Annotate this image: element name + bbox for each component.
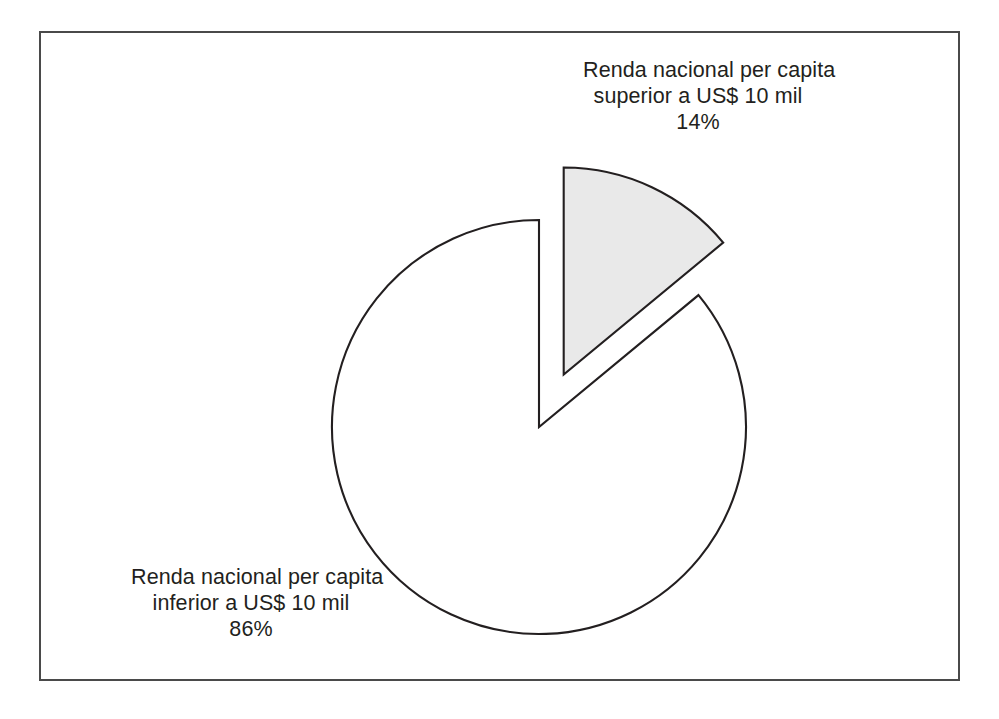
- pie-label-inferior-percent: 86%: [131, 616, 371, 642]
- figure-root: Renda nacional per capita superior a US$…: [0, 0, 999, 719]
- pie-label-superior-line1: Renda nacional per capita: [583, 58, 835, 82]
- pie-label-inferior-line2: inferior a US$ 10 mil: [153, 591, 350, 615]
- pie-label-inferior-line1: Renda nacional per capita: [131, 565, 383, 589]
- pie-label-inferior: Renda nacional per capita inferior a US$…: [131, 564, 371, 642]
- pie-slice-inferior: [332, 220, 746, 634]
- pie-label-superior-line2: superior a US$ 10 mil: [594, 84, 803, 108]
- pie-label-superior: Renda nacional per capita superior a US$…: [583, 57, 813, 135]
- pie-label-superior-percent: 14%: [583, 109, 813, 135]
